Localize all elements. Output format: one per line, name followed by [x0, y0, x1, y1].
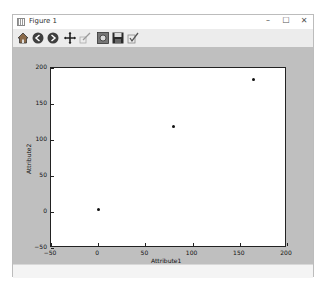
y-tick-mark — [51, 212, 54, 213]
x-tick-mark — [193, 243, 194, 246]
x-tick-mark — [240, 243, 241, 246]
y-tick-mark — [51, 68, 54, 69]
y-tick-label: 150 — [25, 99, 47, 106]
x-tick-label: 0 — [85, 249, 109, 256]
y-tick-label: 100 — [25, 135, 47, 142]
title-bar: Figure 1 – ☐ ✕ — [13, 15, 313, 29]
figure-canvas[interactable]: Attribute1 Attribute2 200150100500−50−50… — [13, 47, 313, 264]
x-tick-mark — [145, 243, 146, 246]
x-axis-label: Attribute1 — [151, 257, 181, 264]
x-tick-label: 100 — [180, 249, 204, 256]
y-tick-mark — [51, 140, 54, 141]
x-tick-label: 50 — [132, 249, 156, 256]
maximize-button[interactable]: ☐ — [280, 16, 292, 25]
figure-window: Figure 1 – ☐ ✕ — [12, 14, 314, 277]
minimize-button[interactable]: – — [262, 16, 274, 25]
data-point — [97, 208, 100, 211]
x-tick-mark — [51, 243, 52, 246]
subplots-icon[interactable] — [97, 32, 109, 44]
y-tick-label: 200 — [25, 63, 47, 70]
close-button[interactable]: ✕ — [298, 16, 310, 25]
x-tick-label: 150 — [227, 249, 251, 256]
x-tick-mark — [287, 243, 288, 246]
home-icon[interactable] — [17, 32, 29, 44]
y-tick-label: 0 — [25, 207, 47, 214]
data-point — [252, 78, 255, 81]
window-title: Figure 1 — [29, 17, 57, 25]
save-icon[interactable] — [112, 32, 124, 44]
y-tick-label: 50 — [25, 171, 47, 178]
x-tick-label: 200 — [274, 249, 298, 256]
x-tick-label: −50 — [38, 249, 62, 256]
y-axis-label: Attribute2 — [25, 144, 32, 174]
back-arrow-icon[interactable] — [32, 32, 44, 44]
plot-axes[interactable] — [50, 67, 286, 247]
x-tick-mark — [98, 243, 99, 246]
toolbar — [13, 29, 313, 47]
data-point — [172, 125, 175, 128]
app-icon — [17, 18, 25, 26]
pan-icon[interactable] — [64, 32, 76, 44]
edit-check-icon[interactable] — [127, 32, 139, 44]
forward-arrow-icon[interactable] — [47, 32, 59, 44]
y-tick-mark — [51, 104, 54, 105]
status-bar — [13, 264, 313, 278]
zoom-rect-icon[interactable] — [79, 32, 91, 44]
y-tick-mark — [51, 176, 54, 177]
